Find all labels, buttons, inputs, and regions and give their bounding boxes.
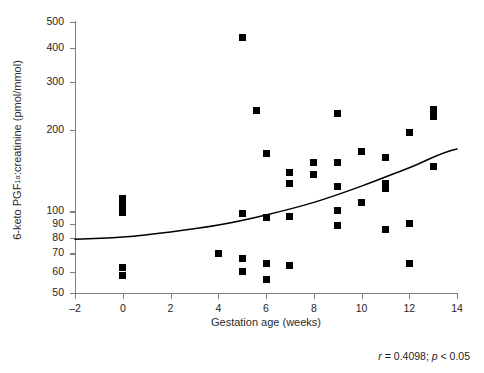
y-axis-tick-label: 70 <box>28 247 64 257</box>
data-point-marker <box>119 195 126 202</box>
x-axis-tick-mark <box>409 294 410 299</box>
data-point-marker <box>382 226 389 233</box>
data-point-marker <box>286 262 293 269</box>
regression-curve <box>75 22 457 293</box>
y-axis-title-subscript: 1α <box>13 175 22 184</box>
y-axis-tick-label: 500 <box>28 16 64 26</box>
x-axis-tick-label: 6 <box>251 302 281 314</box>
x-axis-tick-label: –2 <box>60 302 90 314</box>
y-axis-tick-label: 300 <box>28 76 64 86</box>
pvalue-value: < 0.05 <box>438 350 470 362</box>
x-axis-tick-label: 4 <box>203 302 233 314</box>
data-point-marker <box>263 260 270 267</box>
x-axis-tick-label: 14 <box>442 302 472 314</box>
y-axis-tick-label: 50 <box>28 287 64 297</box>
statistics-caption: r = 0.4098; p < 0.05 <box>378 350 470 362</box>
data-point-marker <box>263 150 270 157</box>
data-point-marker <box>263 214 270 221</box>
x-axis-tick-mark <box>362 294 363 299</box>
data-point-marker <box>263 276 270 283</box>
data-point-marker <box>334 110 341 117</box>
data-point-marker <box>358 148 365 155</box>
data-point-marker <box>286 169 293 176</box>
data-point-marker <box>119 272 126 279</box>
data-point-marker <box>406 260 413 267</box>
data-point-marker <box>358 199 365 206</box>
data-point-marker <box>334 183 341 190</box>
data-point-marker <box>239 268 246 275</box>
data-point-marker <box>239 34 246 41</box>
x-axis-tick-label: 8 <box>299 302 329 314</box>
data-point-marker <box>119 264 126 271</box>
data-point-marker <box>239 210 246 217</box>
y-axis-tick-label: 200 <box>28 124 64 134</box>
x-axis-tick-mark <box>75 294 76 299</box>
data-point-marker <box>215 250 222 257</box>
data-point-marker <box>239 255 246 262</box>
data-point-marker <box>334 159 341 166</box>
x-axis-tick-mark <box>457 294 458 299</box>
y-axis-title: 6-keto PGF1α:creatinine (pmol/mmol) <box>6 0 28 300</box>
data-point-marker <box>286 213 293 220</box>
data-point-marker <box>334 207 341 214</box>
data-point-marker <box>119 209 126 216</box>
correlation-value: = 0.4098; <box>382 350 432 362</box>
y-axis-tick-label: 80 <box>28 232 64 242</box>
x-axis-tick-label: 0 <box>108 302 138 314</box>
data-point-marker <box>406 220 413 227</box>
y-axis-tick-label: 60 <box>28 266 64 276</box>
x-axis-tick-mark <box>171 294 172 299</box>
plot-area <box>75 22 457 293</box>
x-axis-tick-label: 2 <box>156 302 186 314</box>
x-axis-tick-mark <box>218 294 219 299</box>
data-point-marker <box>334 222 341 229</box>
data-point-marker <box>310 171 317 178</box>
scatter-plot-figure: 6-keto PGF1α:creatinine (pmol/mmol) 5060… <box>0 0 484 373</box>
x-axis-tick-mark <box>123 294 124 299</box>
x-axis-tick-mark <box>314 294 315 299</box>
x-axis-tick-mark <box>266 294 267 299</box>
data-point-marker <box>382 185 389 192</box>
y-axis-title-post: :creatinine (pmol/mmol) <box>11 60 23 175</box>
y-axis-tick-label: 100 <box>28 205 64 215</box>
data-point-marker <box>406 129 413 136</box>
data-point-marker <box>430 163 437 170</box>
data-point-marker <box>430 113 437 120</box>
y-axis-tick-label: 400 <box>28 42 64 52</box>
y-axis-tick-label: 90 <box>28 218 64 228</box>
y-axis-title-pre: 6-keto PGF <box>11 184 23 240</box>
data-point-marker <box>286 180 293 187</box>
data-point-marker <box>253 107 260 114</box>
x-axis-tick-label: 12 <box>394 302 424 314</box>
data-point-marker <box>310 159 317 166</box>
data-point-marker <box>382 154 389 161</box>
x-axis-title: Gestation age (weeks) <box>75 316 457 328</box>
x-axis-tick-label: 10 <box>347 302 377 314</box>
